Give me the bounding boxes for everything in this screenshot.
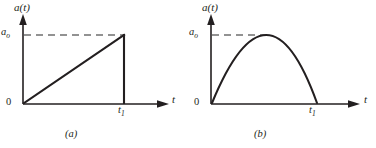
ramp-curve-a bbox=[24, 35, 124, 103]
y-axis-label-b: a(t) bbox=[202, 2, 218, 13]
x-tick-sub-a: 1 bbox=[121, 109, 125, 118]
panel-b-parabola: a(t) ao 0 t1 t (b) bbox=[188, 0, 376, 148]
figure-root: a(t) ao 0 t1 t (a) a(t) ao 0 bbox=[0, 0, 376, 148]
y-axis-label-a: a(t) bbox=[14, 2, 30, 13]
y-tick-sub-b: o bbox=[194, 31, 198, 40]
x-tick-label-t1-a: t1 bbox=[118, 105, 125, 118]
x-tick-sub-b: 1 bbox=[312, 109, 316, 118]
y-tick-label-a0-a: ao bbox=[1, 27, 10, 40]
origin-label-a: 0 bbox=[6, 97, 11, 108]
plot-a-graphics bbox=[0, 0, 188, 148]
panel-caption-a: (a) bbox=[65, 129, 77, 140]
y-axis-b bbox=[207, 14, 215, 104]
plot-b-graphics bbox=[188, 0, 376, 148]
y-axis-a bbox=[19, 14, 27, 104]
x-axis-label-a: t bbox=[172, 94, 175, 105]
y-tick-label-a0-b: ao bbox=[189, 27, 198, 40]
panel-caption-b: (b) bbox=[254, 129, 266, 140]
origin-label-b: 0 bbox=[194, 97, 199, 108]
x-axis-label-b: t bbox=[364, 94, 367, 105]
x-tick-label-t1-b: t1 bbox=[309, 105, 316, 118]
parabola-curve-b bbox=[212, 35, 317, 103]
panel-a-ramp: a(t) ao 0 t1 t (a) bbox=[0, 0, 188, 148]
x-axis-a bbox=[23, 100, 169, 108]
x-axis-b bbox=[211, 100, 360, 108]
y-tick-sub-a: o bbox=[6, 31, 10, 40]
